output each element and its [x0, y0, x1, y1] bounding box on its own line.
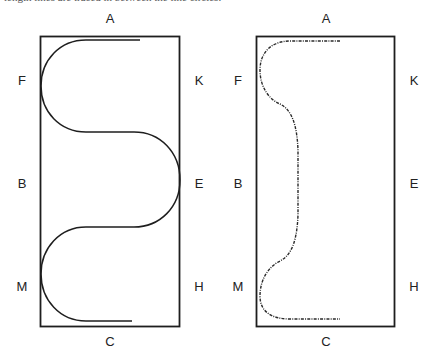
right-label-b: B	[234, 176, 243, 191]
left-frame	[41, 37, 180, 327]
left-label-bottom: C	[105, 334, 114, 349]
right-label-bottom: C	[321, 334, 330, 349]
right-label-e: E	[410, 176, 419, 191]
left-label-e: E	[195, 176, 204, 191]
left-label-h: H	[194, 279, 203, 294]
right-dotted-curve	[260, 41, 340, 319]
left-figure: A C F B M K E H	[17, 11, 204, 349]
diagram-canvas: A C F B M K E H A C F B M K E H	[0, 0, 436, 358]
right-figure: A C F B M K E H	[233, 11, 419, 349]
right-label-top: A	[322, 11, 331, 26]
left-serpentine-curve	[41, 40, 180, 321]
left-label-k: K	[195, 73, 204, 88]
right-label-m: M	[233, 279, 244, 294]
right-frame	[257, 37, 395, 327]
right-label-f: F	[234, 73, 242, 88]
left-label-b: B	[18, 176, 27, 191]
right-label-k: K	[410, 73, 419, 88]
left-label-top: A	[106, 11, 115, 26]
left-label-f: F	[18, 73, 26, 88]
left-label-m: M	[17, 279, 28, 294]
right-label-h: H	[409, 279, 418, 294]
